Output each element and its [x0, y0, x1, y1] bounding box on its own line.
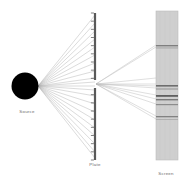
source-circle [12, 73, 39, 100]
screen-label: Screen [158, 172, 173, 176]
source-label: Source [19, 110, 34, 114]
source-disc [0, 0, 189, 186]
diffraction-figure: Source Plate Screen [0, 0, 189, 186]
plate-label: Plate [89, 163, 100, 167]
